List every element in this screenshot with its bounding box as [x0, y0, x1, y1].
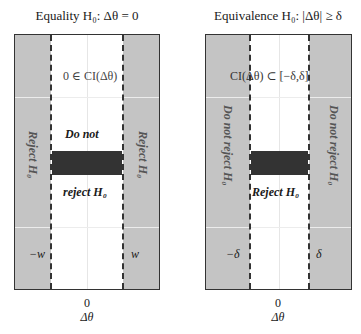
- right-region-label: Do not reject H₀: [326, 105, 341, 186]
- equivalence-panel: CI(Δθ) ⊂ [−δ,δ] Do not reject H₀ Do not …: [205, 34, 352, 290]
- confidence-interval-bar: [251, 151, 308, 175]
- x-axis-label: Δθ: [67, 310, 107, 325]
- left-region-label: Reject H₀: [25, 131, 40, 178]
- upper-bound-line: [122, 35, 124, 289]
- gridline: [206, 227, 351, 228]
- lower-bound-label: −w: [29, 247, 45, 262]
- x-tick-zero: 0: [258, 296, 298, 311]
- equivalence-title: Equivalence H₀: |Δθ| ≥ δ: [195, 8, 361, 24]
- left-region-label: Do not reject H₀: [220, 105, 235, 186]
- x-axis-label: Δθ: [258, 310, 298, 325]
- equality-title: Equality H₀: Δθ = 0: [14, 8, 160, 24]
- gridline: [206, 97, 351, 98]
- annotation: 0 ∈ CI(Δθ): [63, 69, 117, 84]
- gridline: [15, 97, 159, 98]
- lower-bound-label: −δ: [226, 247, 240, 262]
- center-label: Reject H₀: [252, 185, 299, 200]
- upper-bound-label: w: [131, 247, 139, 262]
- center-label-top: Do not: [65, 127, 99, 142]
- gridline: [15, 227, 159, 228]
- right-region-label: Reject H₀: [135, 131, 150, 178]
- confidence-interval-bar: [52, 151, 122, 175]
- equality-panel: 0 ∈ CI(Δθ) Reject H₀ Reject H₀ Do not re…: [14, 34, 160, 290]
- x-tick-zero: 0: [67, 296, 107, 311]
- center-label-bottom: reject H₀: [63, 185, 107, 200]
- annotation: CI(Δθ) ⊂ [−δ,δ]: [230, 69, 309, 84]
- upper-bound-label: δ: [316, 247, 322, 262]
